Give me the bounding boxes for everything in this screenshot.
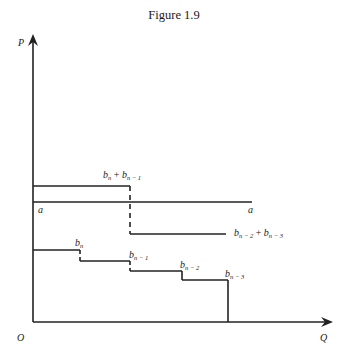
line-a-right-label: a [248,205,253,215]
label-bn: bn [75,238,83,250]
label-bn-2: bn − 2 [180,260,199,272]
diagram-canvas [0,0,348,357]
label-bn-plus-bn-1: bn + bn − 1 [103,170,141,182]
origin-label: O [17,333,24,343]
x-axis-label: Q [320,333,327,343]
label-bn-2-plus-bn-3: bn − 2 + bn − 3 [234,228,283,240]
line-a-left-label: a [38,205,43,215]
label-bn-3: bn − 3 [225,269,244,281]
label-bn-1: bn − 1 [129,250,148,262]
y-axis-label: P [18,38,24,48]
